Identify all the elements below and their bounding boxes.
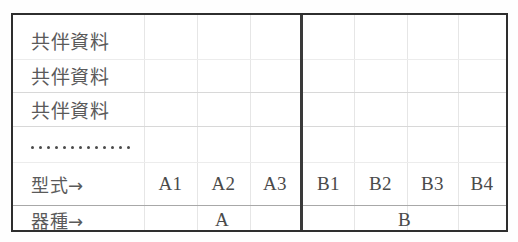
ellipsis-dot <box>111 146 114 149</box>
data-row-label-1: 共伴資料 <box>31 21 151 59</box>
ellipsis-dot <box>63 146 66 149</box>
data-row-label-2: 共伴資料 <box>31 57 151 93</box>
vessel-group-b: B <box>303 205 506 235</box>
ellipsis-dot <box>47 146 50 149</box>
ellipsis-dot <box>119 146 122 149</box>
ellipsis-dot <box>39 146 42 149</box>
type-row-label: 型式→ <box>31 163 151 205</box>
ellipsis-dot <box>103 146 106 149</box>
seriation-table: 共伴資料 共伴資料 共伴資料 型式→ A1 A2 A3 B1 B2 B3 B4 … <box>11 13 508 232</box>
type-cell-a1: A1 <box>144 163 197 205</box>
type-cell-a2: A2 <box>197 163 250 205</box>
type-cell-b4: B4 <box>458 163 506 205</box>
type-cell-b3: B3 <box>407 163 458 205</box>
type-cell-b1: B1 <box>303 163 354 205</box>
ellipsis-dots-row <box>31 133 130 161</box>
table-inner-grid: 共伴資料 共伴資料 共伴資料 型式→ A1 A2 A3 B1 B2 B3 B4 … <box>13 15 506 230</box>
ellipsis-dot <box>127 146 130 149</box>
ellipsis-dot <box>87 146 90 149</box>
ellipsis-dot <box>55 146 58 149</box>
vessel-group-a: A <box>144 205 300 235</box>
data-row-label-3: 共伴資料 <box>31 91 151 127</box>
type-cell-a3: A3 <box>250 163 300 205</box>
ellipsis-dot <box>95 146 98 149</box>
ellipsis-dot <box>31 146 34 149</box>
ellipsis-dot <box>71 146 74 149</box>
type-cell-b2: B2 <box>354 163 407 205</box>
scanned-page-background: 共伴資料 共伴資料 共伴資料 型式→ A1 A2 A3 B1 B2 B3 B4 … <box>0 0 518 242</box>
ellipsis-dot <box>79 146 82 149</box>
vessel-row-label: 器種→ <box>31 205 151 235</box>
